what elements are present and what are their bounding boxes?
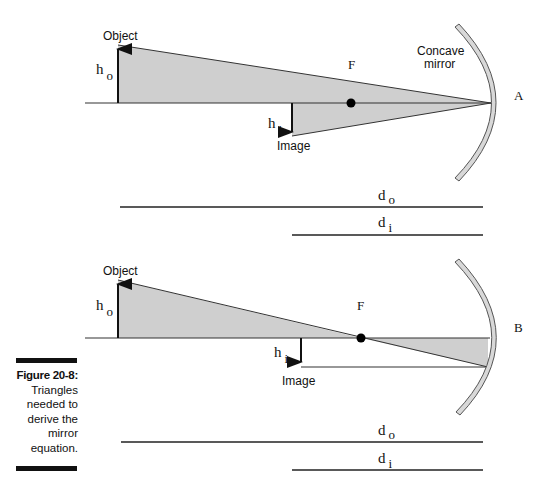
caption-top-rule xyxy=(16,358,77,363)
h-image-label-b: hi xyxy=(274,344,289,366)
focal-point-b xyxy=(357,334,366,343)
h-object-label-a: ho xyxy=(96,61,113,83)
mirror-label-line2: mirror xyxy=(424,57,455,71)
focal-label-b: F xyxy=(357,298,364,313)
caption-bottom-rule xyxy=(16,466,77,471)
d-image-label-b: di xyxy=(378,450,393,471)
d-object-label-a: do xyxy=(378,187,395,207)
mirror-diagram: Object ho hi Image F Concave mirror A do… xyxy=(0,0,547,495)
object-label-b: Object xyxy=(103,264,138,278)
image-label-a: Image xyxy=(277,139,311,153)
focal-point-a xyxy=(347,99,356,108)
focal-label-a: F xyxy=(348,57,355,72)
image-label-b: Image xyxy=(282,374,316,388)
mirror-label-line1: Concave xyxy=(417,44,465,58)
d-object-label-b: do xyxy=(378,422,395,442)
h-object-label-b: ho xyxy=(96,297,113,319)
object-label-a: Object xyxy=(103,29,138,43)
figure-caption-text: Triangles needed to derive the mirror eq… xyxy=(16,383,78,456)
panel-label-b: B xyxy=(514,320,523,335)
figure-caption: Figure 20-8: Triangles needed to derive … xyxy=(16,368,78,455)
d-image-label-a: di xyxy=(378,214,393,235)
panel-label-a: A xyxy=(514,88,524,103)
diagram-b xyxy=(85,259,496,470)
figure-number: Figure 20-8: xyxy=(16,368,78,383)
concave-mirror-b xyxy=(455,259,496,415)
h-image-label-a: hi xyxy=(268,115,283,137)
